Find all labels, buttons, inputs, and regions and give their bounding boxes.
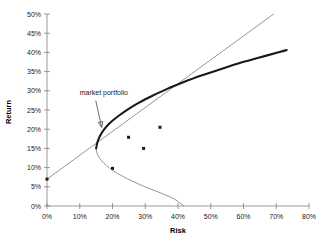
y-tick-label: 5%	[31, 183, 41, 190]
y-tick-label: 0%	[31, 203, 41, 210]
market-portfolio-label: market portfolio	[80, 89, 128, 97]
y-tick-label: 40%	[27, 49, 41, 56]
x-tick-label: 60%	[236, 213, 250, 220]
y-axis-tick-labels: 0%5%10%15%20%25%30%35%40%45%50%	[27, 11, 41, 210]
data-point-marker	[111, 167, 114, 170]
y-tick-label: 35%	[27, 68, 41, 75]
asset-data-points	[46, 126, 162, 181]
chart-plot-area: 0%5%10%15%20%25%30%35%40%45%50% Return 0…	[0, 0, 329, 243]
efficient-frontier-chart: 0%5%10%15%20%25%30%35%40%45%50% Return 0…	[0, 0, 329, 243]
y-axis-title: Return	[4, 100, 13, 125]
data-point-marker	[142, 147, 145, 150]
x-tick-label: 50%	[204, 213, 218, 220]
y-tick-label: 25%	[27, 107, 41, 114]
market-portfolio-arrowhead-icon	[98, 121, 102, 127]
y-tick-label: 10%	[27, 164, 41, 171]
y-axis-group: 0%5%10%15%20%25%30%35%40%45%50% Return	[4, 11, 50, 210]
annotation-group: market portfolio	[80, 89, 128, 128]
x-tick-label: 0%	[42, 213, 52, 220]
data-point-marker	[127, 136, 130, 139]
efficient-frontier-curve	[96, 50, 287, 148]
x-tick-label: 20%	[105, 213, 119, 220]
x-axis-title: Risk	[170, 226, 187, 235]
data-point-marker	[158, 126, 161, 129]
x-tick-label: 10%	[73, 213, 87, 220]
x-tick-label: 40%	[171, 213, 185, 220]
data-point-marker	[46, 178, 49, 181]
series-group	[46, 14, 287, 206]
x-tick-label: 30%	[138, 213, 152, 220]
y-tick-label: 50%	[27, 11, 41, 18]
y-tick-label: 30%	[27, 87, 41, 94]
y-tick-label: 45%	[27, 30, 41, 37]
y-tick-label: 15%	[27, 145, 41, 152]
capital-market-line	[47, 14, 274, 179]
x-axis-group: 0%10%20%30%40%50%60%70%80% Risk	[42, 203, 316, 235]
x-axis-tick-labels: 0%10%20%30%40%50%60%70%80%	[42, 213, 316, 220]
inefficient-frontier-curve	[96, 148, 184, 206]
x-tick-label: 70%	[269, 213, 283, 220]
x-tick-label: 80%	[302, 213, 316, 220]
y-tick-label: 20%	[27, 126, 41, 133]
